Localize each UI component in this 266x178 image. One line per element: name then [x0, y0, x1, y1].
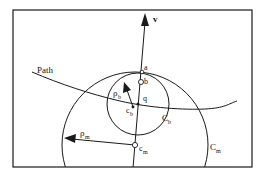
- rho-m-line: [72, 139, 135, 145]
- label-rho-b-sub: b: [118, 94, 121, 100]
- rho-b-line: [127, 90, 133, 107]
- rho-m-arrow-icon: [64, 134, 76, 143]
- path-planning-diagram: v Path a b q ρ b c b C b ρ m c m C m: [0, 0, 266, 178]
- label-a: a: [144, 63, 148, 72]
- label-q: q: [143, 94, 147, 103]
- label-c-m-sub: m: [143, 149, 148, 155]
- rho-b-arrow-icon: [123, 82, 131, 93]
- label-c-b-sub: b: [130, 111, 133, 117]
- point-c-b: [132, 106, 135, 109]
- label-path: Path: [37, 65, 54, 75]
- label-circle-c-m-sub: m: [216, 148, 221, 154]
- label-b: b: [144, 77, 148, 86]
- label-circle-c-b-sub: b: [168, 119, 171, 125]
- point-b: [139, 80, 144, 85]
- label-v: v: [153, 14, 158, 24]
- label-rho-m-sub: m: [85, 134, 90, 140]
- circle-c-m: [62, 72, 208, 178]
- path-curve: [32, 72, 237, 109]
- velocity-arrow-icon: [141, 13, 149, 26]
- point-c-m: [132, 142, 137, 147]
- point-q: [137, 103, 140, 106]
